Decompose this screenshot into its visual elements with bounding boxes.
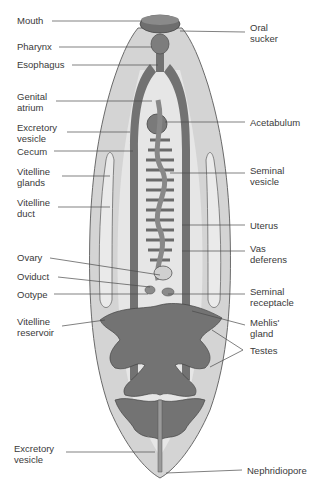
label-excretory-vesicle-lower: Excretory vesicle bbox=[14, 443, 54, 465]
label-vitelline-glands: Vitelline glands bbox=[17, 166, 50, 188]
ovary bbox=[154, 266, 172, 280]
label-ootype: Ootype bbox=[17, 289, 48, 300]
label-acetabulum: Acetabulum bbox=[250, 117, 300, 128]
label-nephridiopore: Nephridiopore bbox=[247, 465, 307, 476]
mouth-opening bbox=[141, 15, 179, 25]
label-seminal-vesicle: Seminal vesicle bbox=[250, 165, 284, 187]
label-mouth: Mouth bbox=[17, 15, 43, 26]
label-mehlis-gland: Mehlis' gland bbox=[250, 317, 279, 339]
esophagus bbox=[156, 52, 164, 72]
label-oral-sucker: Oral sucker bbox=[250, 22, 278, 44]
label-testes: Testes bbox=[250, 345, 277, 356]
label-vitelline-reservoir: Vitelline reservoir bbox=[17, 316, 54, 338]
label-genital-atrium: Genital atrium bbox=[17, 91, 47, 113]
label-excretory-vesicle-upper: Excretory vesicle bbox=[17, 122, 57, 144]
label-ovary: Ovary bbox=[17, 252, 42, 263]
label-vas-deferens: Vas deferens bbox=[250, 243, 287, 265]
label-esophagus: Esophagus bbox=[17, 59, 65, 70]
label-cecum: Cecum bbox=[17, 146, 47, 157]
excretory-vesicle bbox=[158, 400, 162, 472]
label-seminal-receptacle: Seminal receptacle bbox=[250, 286, 294, 308]
label-uterus: Uterus bbox=[250, 220, 278, 231]
pharynx bbox=[151, 34, 169, 54]
label-oviduct: Oviduct bbox=[17, 271, 49, 282]
ootype bbox=[145, 286, 155, 294]
label-pharynx: Pharynx bbox=[17, 41, 52, 52]
seminal-receptacle bbox=[162, 288, 174, 296]
label-vitelline-duct: Vitelline duct bbox=[17, 197, 50, 219]
